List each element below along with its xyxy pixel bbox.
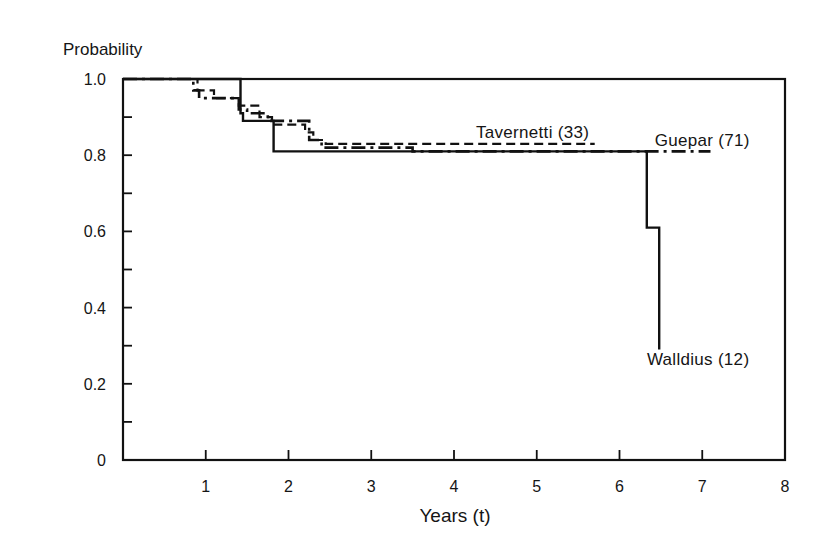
y-tick-label: 0.6 — [84, 223, 106, 240]
y-tick-label: 0.8 — [84, 147, 106, 164]
series-labels: Tavernetti (33)Guepar (71)Walldius (12) — [476, 123, 750, 369]
y-tick-label: 1.0 — [84, 71, 106, 88]
survival-chart: Probability 00.20.40.60.81.0 12345678 Ta… — [0, 0, 830, 550]
x-tick-label: 5 — [532, 478, 541, 495]
x-axis-label: Years (t) — [419, 505, 490, 526]
series-label: Walldius (12) — [647, 350, 749, 369]
x-tick-label: 8 — [781, 478, 790, 495]
x-tick-label: 2 — [284, 478, 293, 495]
x-axis-ticks: 12345678 — [201, 450, 789, 495]
y-tick-label: 0 — [97, 452, 106, 469]
series-walldius — [123, 79, 659, 350]
x-tick-label: 3 — [367, 478, 376, 495]
y-axis-label: Probability — [63, 40, 143, 59]
x-tick-label: 6 — [615, 478, 624, 495]
y-tick-label: 0.2 — [84, 376, 106, 393]
x-tick-label: 7 — [698, 478, 707, 495]
y-axis-ticks: 00.20.40.60.81.0 — [84, 71, 132, 469]
x-tick-label: 1 — [201, 478, 210, 495]
x-tick-label: 4 — [450, 478, 459, 495]
series-lines — [123, 79, 711, 350]
series-label: Tavernetti (33) — [476, 123, 589, 142]
y-tick-label: 0.4 — [84, 300, 106, 317]
series-label: Guepar (71) — [655, 131, 750, 150]
